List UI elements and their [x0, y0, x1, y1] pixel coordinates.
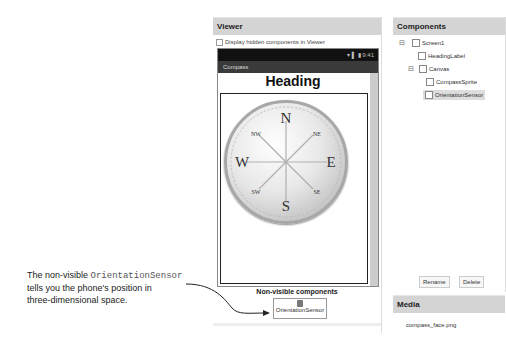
svg-text:NW: NW — [251, 131, 261, 137]
tree-item-screen1[interactable]: ⊟ Screen1 — [399, 39, 444, 47]
non-visible-item-label: OrientationSensor — [276, 307, 324, 313]
heading-label[interactable]: Heading — [218, 73, 368, 90]
compass-sprite[interactable]: N E S W NE NW SE SW — [224, 100, 348, 224]
display-hidden-checkbox-row[interactable]: Display hidden components in Viewer — [213, 37, 381, 47]
tree-item-label: Screen1 — [422, 40, 444, 46]
viewer-panel: Viewer Display hidden components in View… — [213, 17, 382, 333]
collapse-toggle-icon[interactable]: ⊟ — [399, 39, 405, 47]
svg-text:S: S — [282, 198, 290, 214]
tree-item-headinglabel[interactable]: HeadingLabel — [418, 52, 465, 60]
svg-text:W: W — [235, 154, 250, 170]
display-hidden-label: Display hidden components in Viewer — [225, 39, 325, 45]
collapse-toggle-icon[interactable]: ⊟ — [408, 65, 414, 73]
media-header: Media — [393, 295, 505, 313]
components-panel: Components ⊟ Screen1 HeadingLabel ⊟ Canv… — [393, 17, 506, 292]
phone-status-bar: ▾ ▌ ▮ 9:41 — [218, 49, 378, 61]
canvas[interactable]: N E S W NE NW SE SW — [220, 93, 368, 284]
rename-button[interactable]: Rename — [419, 276, 450, 288]
tree-item-label: Canvas — [429, 66, 449, 72]
tree-item-orientationsensor[interactable]: OrientationSensor — [423, 90, 485, 100]
tree-item-label: CompassSprite — [436, 79, 477, 85]
viewer-header: Viewer — [213, 17, 381, 35]
phone-scrollbar[interactable] — [370, 73, 378, 286]
svg-text:SW: SW — [252, 189, 261, 195]
sensor-icon — [425, 91, 433, 99]
svg-text:E: E — [326, 154, 335, 170]
delete-button[interactable]: Delete — [459, 276, 484, 288]
tree-item-label: OrientationSensor — [435, 92, 483, 98]
non-visible-title: Non-visible components — [213, 288, 381, 295]
svg-text:SE: SE — [313, 189, 320, 195]
app-title-bar: Compass — [218, 61, 378, 73]
label-icon — [418, 52, 426, 60]
media-panel: Media compass_face.png — [393, 295, 505, 328]
tree-item-canvas[interactable]: ⊟ Canvas — [408, 65, 449, 73]
components-header: Components — [393, 17, 505, 35]
compass-face-icon: N E S W NE NW SE SW — [227, 103, 345, 221]
svg-text:N: N — [281, 110, 292, 126]
orientation-sensor-icon — [297, 300, 303, 307]
screen-icon — [412, 39, 420, 47]
viewer-divider — [213, 323, 381, 326]
svg-text:NE: NE — [313, 131, 321, 137]
tree-item-compasssprite[interactable]: CompassSprite — [426, 78, 477, 86]
non-visible-orientation-sensor[interactable]: OrientationSensor — [273, 298, 327, 319]
display-hidden-checkbox[interactable] — [216, 39, 223, 46]
phone-preview: ▾ ▌ ▮ 9:41 Compass Heading N E S — [217, 48, 379, 287]
canvas-icon — [419, 65, 427, 73]
tree-item-label: HeadingLabel — [428, 53, 465, 59]
sprite-icon — [426, 78, 434, 86]
media-file-item[interactable]: compass_face.png — [393, 322, 505, 328]
